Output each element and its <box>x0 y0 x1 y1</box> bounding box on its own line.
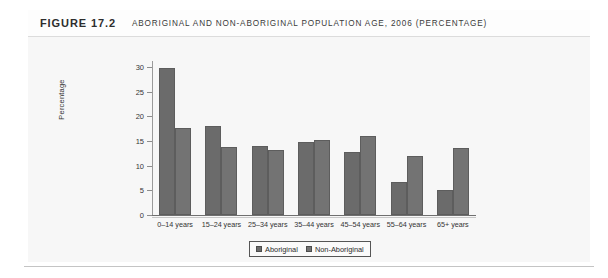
bars-layer <box>152 37 476 216</box>
y-axis-tick-label: 5 <box>118 190 144 191</box>
legend-entry-aboriginal: Aboriginal <box>256 245 298 254</box>
x-axis-tick-label: 65+ years <box>427 220 479 229</box>
bar-aboriginal-5 <box>391 182 407 215</box>
chart-plot-area: Percentage 051015202530 0–14 years15–24 … <box>28 37 590 262</box>
x-axis-line-shadow <box>152 217 476 218</box>
y-axis-tick-label: 10 <box>118 166 144 167</box>
y-axis-tick-label: 0 <box>118 215 144 216</box>
bar-non-aboriginal-0 <box>175 128 191 215</box>
legend-swatch-icon <box>306 246 312 252</box>
y-axis-tick-label: 25 <box>118 92 144 93</box>
y-axis-tick-label: 30 <box>118 67 144 68</box>
x-axis-tick-label: 25–34 years <box>242 220 294 229</box>
bar-aboriginal-4 <box>344 152 360 215</box>
bar-non-aboriginal-5 <box>407 156 423 215</box>
figure-container: FIGURE 17.2 ABORIGINAL AND NON-ABORIGINA… <box>0 0 608 278</box>
bar-aboriginal-6 <box>437 190 453 215</box>
y-axis-tick-label: 15 <box>118 141 144 142</box>
y-axis-tick-label: 20 <box>118 116 144 117</box>
figure-title: ABORIGINAL AND NON-ABORIGINAL POPULATION… <box>132 19 487 28</box>
legend-swatch-icon <box>256 246 262 252</box>
bar-aboriginal-1 <box>205 126 221 215</box>
chart-legend: AboriginalNon-Aboriginal <box>249 241 371 257</box>
bar-aboriginal-2 <box>252 146 268 215</box>
bar-non-aboriginal-1 <box>221 147 237 215</box>
legend-label: Non-Aboriginal <box>315 245 364 254</box>
page-rule <box>24 266 594 267</box>
legend-label: Aboriginal <box>265 245 298 254</box>
x-axis-tick-label: 35–44 years <box>288 220 340 229</box>
x-axis-tick-label: 45–54 years <box>334 220 386 229</box>
figure-number: FIGURE 17.2 <box>40 17 116 29</box>
bar-aboriginal-3 <box>298 142 314 215</box>
bar-non-aboriginal-3 <box>314 140 330 215</box>
bar-non-aboriginal-4 <box>360 136 376 215</box>
bar-non-aboriginal-2 <box>268 150 284 215</box>
figure-caption: FIGURE 17.2 ABORIGINAL AND NON-ABORIGINA… <box>28 10 590 37</box>
legend-entry-non-aboriginal: Non-Aboriginal <box>306 245 364 254</box>
bar-aboriginal-0 <box>159 68 175 216</box>
bar-non-aboriginal-6 <box>453 148 469 215</box>
x-axis-tick-label: 0–14 years <box>149 220 201 229</box>
x-axis-tick-label: 55–64 years <box>380 220 432 229</box>
y-axis-title: Percentage <box>57 55 66 145</box>
x-axis-tick-label: 15–24 years <box>195 220 247 229</box>
